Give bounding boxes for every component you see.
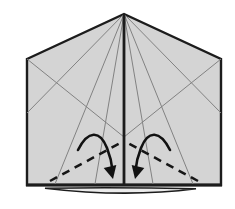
bottom-flap-shape bbox=[45, 188, 196, 193]
origami-step-figure bbox=[0, 0, 235, 209]
origami-diagram-svg bbox=[0, 0, 235, 209]
bottom-flap-layer bbox=[45, 188, 196, 193]
